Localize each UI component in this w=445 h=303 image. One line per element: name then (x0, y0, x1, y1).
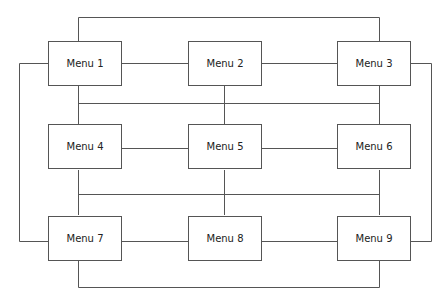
node-menu-3: Menu 3 (337, 41, 411, 86)
node-label: Menu 5 (207, 141, 244, 152)
node-menu-1: Menu 1 (48, 41, 122, 86)
node-label: Menu 1 (67, 58, 104, 69)
node-label: Menu 9 (356, 233, 393, 244)
node-label: Menu 3 (356, 58, 393, 69)
node-menu-7: Menu 7 (48, 216, 122, 261)
node-menu-6: Menu 6 (337, 124, 411, 169)
node-menu-2: Menu 2 (188, 41, 262, 86)
edge-menu1-menu3 (79, 18, 380, 42)
node-menu-4: Menu 4 (48, 124, 122, 169)
edge-menu7-menu9 (79, 261, 380, 288)
node-label: Menu 2 (207, 58, 244, 69)
node-label: Menu 6 (356, 141, 393, 152)
edge-menu3-menu9 (411, 64, 432, 242)
node-label: Menu 4 (67, 141, 104, 152)
node-label: Menu 8 (207, 233, 244, 244)
node-menu-8: Menu 8 (188, 216, 262, 261)
node-menu-5: Menu 5 (188, 124, 262, 169)
node-label: Menu 7 (67, 233, 104, 244)
edge-menu1-menu7 (20, 64, 49, 242)
node-menu-9: Menu 9 (337, 216, 411, 261)
